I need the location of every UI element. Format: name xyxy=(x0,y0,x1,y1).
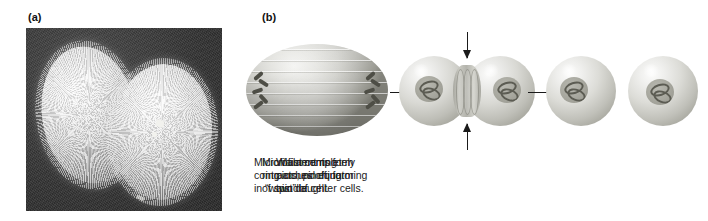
arrow-head xyxy=(463,50,471,59)
arrow-head xyxy=(463,123,471,132)
nucleus-right xyxy=(646,79,674,105)
cleaving-cell xyxy=(399,56,535,126)
cell-highlight xyxy=(642,64,660,77)
chromosome-cluster-right xyxy=(363,70,383,110)
cell-highlight xyxy=(482,64,500,77)
cleavage-furrow xyxy=(453,65,481,117)
panel-b-label: (b) xyxy=(262,11,276,23)
arrow-contraction-bottom xyxy=(463,124,472,150)
stage-daughters-caption: Waist completely pinches off, forming tw… xyxy=(276,156,426,196)
microfilament-ring xyxy=(470,69,479,115)
cell-highlight xyxy=(560,64,578,77)
spindle-stage-cell xyxy=(246,44,388,136)
micrograph-cell-right xyxy=(107,61,216,204)
daughter-cell-pair xyxy=(546,56,698,128)
chromosome-cluster-left xyxy=(251,70,271,110)
figure-root: (a) (b) xyxy=(0,0,708,221)
panel-a-label: (a) xyxy=(28,11,41,23)
micrograph-image xyxy=(26,28,222,211)
nucleus-left xyxy=(560,77,588,103)
nucleus-right xyxy=(493,77,521,103)
cytokinesis-diagram: Microfilaments form ring around equator … xyxy=(240,26,708,221)
nucleus-left xyxy=(415,76,443,102)
arrow-contraction-top xyxy=(463,32,472,58)
